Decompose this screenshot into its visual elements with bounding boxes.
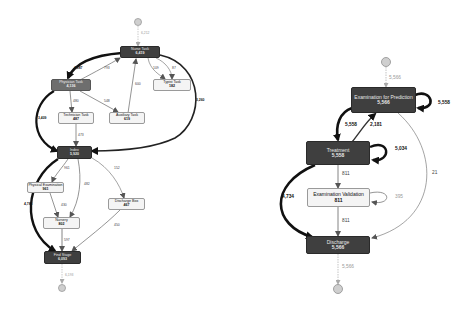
node-count: 487 [73,118,79,122]
node-count: 619 [124,118,130,122]
node-count: 5,566 [332,245,345,250]
edge-label: 600 [135,82,141,86]
edge-label: 109 [153,66,159,70]
edge-label: 87 [172,66,176,70]
edge-label-end: 5,566 [342,264,354,269]
edge-label: 4,734 [282,194,294,199]
node-count: 5,566 [377,100,390,105]
edge-label: 152 [114,166,120,170]
node-nurse-task[interactable]: Nurse Task 6,419 [120,46,160,58]
edge-label: 4,786 [24,202,33,206]
node-nursery[interactable]: Nursery 802 [43,217,80,229]
node-count: 182 [169,85,175,89]
node-examination-validation[interactable]: Examination Validation 811 [307,188,370,207]
node-count: 6,093 [58,258,67,262]
edge-label: 395 [395,194,403,199]
node-discharge-box[interactable]: Discharge Box 467 [108,198,145,210]
edge-label: 811 [342,171,350,176]
node-count: 961 [43,188,49,192]
edge-label: 961 [64,166,70,170]
edge-label: 793 [104,66,110,70]
node-treatment[interactable]: Treatment 5,558 [306,141,370,165]
end-node-icon [334,285,343,294]
edge-label: 5,558 [345,122,357,127]
edge-label: 482 [84,182,90,186]
end-node-icon [59,285,66,292]
edge-label: 5,034 [395,146,407,151]
node-count: 6,419 [136,52,145,56]
node-index[interactable]: Index 5,920 [57,146,92,159]
edge-label-start: 6,212 [141,31,150,35]
node-auxiliary-task[interactable]: Auxiliary Task 619 [109,112,145,124]
edge-label-start: 5,566 [389,75,401,80]
edge-label: 21 [432,170,437,175]
edge-label: 3,260 [196,98,205,102]
start-node-icon [135,19,142,26]
edge-label: 548 [104,99,110,103]
node-typist-task[interactable]: Typist Task 182 [153,79,191,91]
node-discharge[interactable]: Discharge 5,566 [306,236,370,254]
node-find-stage[interactable]: Find Stage 6,093 [44,251,81,264]
edge-label: 597 [64,238,70,242]
edge-label: 811 [342,218,350,223]
edge-label: 5,558 [438,100,450,105]
node-physical-examination[interactable]: Physical Examination 961 [27,182,64,193]
node-count: 467 [124,204,130,208]
node-count: 5,920 [70,153,79,157]
edge-label: 3,409 [38,116,47,120]
edge-label-end: 6,193 [65,273,74,277]
node-technician-task[interactable]: Technician Task 487 [58,112,94,124]
edge-label: 473 [78,133,84,137]
edge-label: 2,181 [370,122,382,127]
start-node-icon [382,58,391,67]
node-count: 5,558 [332,153,345,158]
node-physician-task[interactable]: Physician Task 4,136 [51,79,91,91]
node-count: 4,136 [67,85,76,89]
edge-label: 430 [61,203,67,207]
node-count: 802 [59,223,65,227]
edge-label: 4,087 [74,66,83,70]
node-count: 811 [334,198,342,203]
node-examination-for-prediction[interactable]: Examination for Prediction 5,566 [351,87,416,113]
edge-label: 450 [114,223,120,227]
edge-label: 480 [73,99,79,103]
